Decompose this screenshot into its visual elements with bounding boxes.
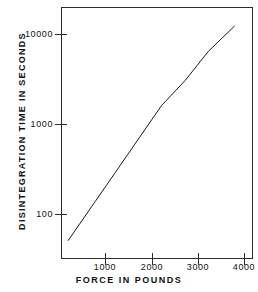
data-series-line: [61, 7, 253, 259]
series-polyline: [68, 26, 235, 241]
x-tick-label-3000: 3000: [178, 262, 218, 272]
y-tick-100: [55, 214, 67, 215]
y-tick-label-10000: 10000: [25, 29, 53, 39]
y-tick-10000: [55, 34, 67, 35]
x-tick-label-4000: 4000: [224, 262, 258, 272]
y-axis-title: DISINTEGRATION TIME IN SECONDS: [17, 21, 27, 241]
x-axis-title: FORCE IN POUNDS: [0, 275, 258, 285]
x-tick-label-2000: 2000: [132, 262, 172, 272]
x-tick-label-1000: 1000: [85, 262, 125, 272]
y-tick-label-100: 100: [36, 209, 53, 219]
chart-figure: 10000 1000 100 1000 2000 3000 4000 FORCE…: [0, 0, 258, 292]
y-tick-label-1000: 1000: [31, 119, 53, 129]
y-tick-1000: [55, 124, 67, 125]
data-line-layer: [61, 7, 253, 259]
